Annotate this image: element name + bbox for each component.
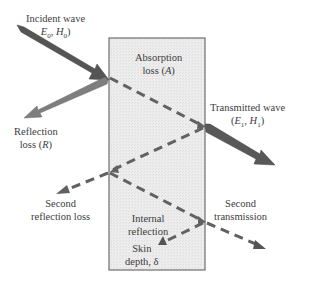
incident-wave-symbol: E0, H0) (26, 26, 85, 43)
dashed-path-second-reflection (66, 173, 108, 190)
second-reflection-line2: reflection loss (31, 211, 90, 224)
absorption-loss-label: Absorption loss (A) (135, 52, 182, 77)
absorption-loss-symbol: loss (A) (135, 65, 182, 78)
skin-depth-label: Skin depth, δ (125, 243, 159, 268)
transmitted-wave-title: Transmitted wave (210, 102, 285, 115)
second-transmission-line1: Second (214, 198, 267, 211)
internal-reflection-line1: Internal (128, 213, 168, 226)
reflection-arrow-icon (24, 77, 108, 118)
second-reflection-line1: Second (31, 198, 90, 211)
incident-wave-label: Incident wave E0, H0) (26, 13, 85, 42)
absorption-loss-title: Absorption (135, 52, 182, 65)
second-transmission-line2: transmission (214, 211, 267, 224)
skin-depth-line2: depth, δ (125, 256, 159, 269)
transmitted-wave-label: Transmitted wave (E1, H1) (210, 102, 285, 131)
transmitted-wave-symbol: (E1, H1) (210, 115, 285, 132)
internal-reflection-line2: reflection (128, 226, 168, 239)
second-transmission-label: Second transmission (214, 198, 267, 223)
second-transmission-arrowhead-icon (253, 240, 266, 249)
reflection-loss-label: Reflection loss (R) (14, 126, 58, 151)
second-reflection-loss-label: Second reflection loss (31, 198, 90, 223)
internal-reflection-label: Internal reflection (128, 213, 168, 238)
dashed-path-second-transmission (207, 223, 258, 245)
reflection-loss-symbol: loss (R) (14, 139, 58, 152)
reflection-loss-title: Reflection (14, 126, 58, 139)
incident-wave-title: Incident wave (26, 13, 85, 26)
second-reflection-arrowhead-icon (56, 185, 70, 194)
skin-depth-line1: Skin (125, 243, 159, 256)
